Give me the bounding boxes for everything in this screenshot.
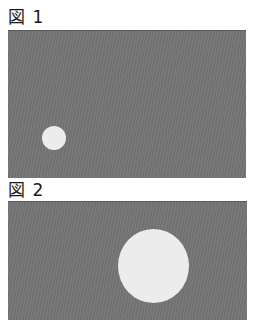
figure-1-label: 図 1 [8, 7, 44, 27]
small-circle [42, 126, 66, 150]
figure-2-panel [8, 201, 247, 320]
figure-1-panel [8, 30, 246, 178]
figure-2-label: 図 2 [8, 180, 44, 200]
large-circle [118, 229, 189, 303]
